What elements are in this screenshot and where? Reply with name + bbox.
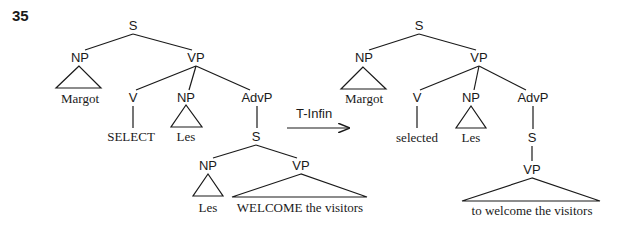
node-label: S: [129, 18, 138, 33]
transformation-label: T-Infin: [296, 106, 332, 121]
tree-branch: [85, 34, 133, 50]
triangle-abbreviation: [56, 66, 101, 88]
node-label: S: [528, 130, 537, 145]
syntax-tree-diagram: 35 SNPVPMargotVNPAdvPSELECTLesSNPVPLesWE…: [0, 0, 621, 228]
node-label: NP: [177, 90, 195, 105]
node-label: AdvP: [517, 90, 548, 105]
triangle-abbreviation: [193, 174, 223, 196]
terminal-word: Les: [199, 200, 218, 215]
tree-branch: [479, 66, 526, 90]
terminal-word: Margot: [61, 91, 99, 106]
figure-number: 35: [12, 7, 29, 24]
node-label: V: [413, 90, 422, 105]
tree-branch: [474, 66, 479, 90]
terminal-word: Les: [177, 129, 196, 144]
node-label: NP: [199, 158, 217, 173]
node-label: NP: [71, 50, 89, 65]
tree-branch: [189, 66, 196, 90]
transformation-arrow-group: T-Infin: [287, 106, 349, 128]
triangle-abbreviation: [456, 106, 486, 128]
node-label: V: [129, 90, 138, 105]
node-label: S: [415, 18, 424, 33]
triangle-abbreviation: [341, 67, 386, 89]
triangle-abbreviation: [171, 105, 202, 127]
tree-branch: [136, 66, 196, 90]
terminal-word: selected: [396, 130, 438, 145]
terminal-word: WELCOME the visitors: [237, 200, 363, 215]
terminal-word: Les: [462, 130, 481, 145]
node-label: VP: [187, 50, 204, 65]
terminal-word: SELECT: [107, 129, 155, 144]
tree-branch: [256, 145, 297, 158]
tree-after-transformation: SNPVPMargotVNPAdvPselectedLesSVPto welco…: [341, 18, 600, 218]
tree-branch: [213, 145, 256, 158]
tree-branch: [419, 34, 476, 50]
node-label: VP: [292, 158, 309, 173]
terminal-word: Margot: [345, 91, 383, 106]
triangle-abbreviation: [232, 174, 367, 197]
node-label: S: [252, 129, 261, 144]
tree-branch: [420, 66, 479, 90]
node-label: NP: [355, 50, 373, 65]
node-label: VP: [523, 162, 540, 177]
node-label: NP: [462, 90, 480, 105]
tree-branch: [196, 66, 250, 90]
tree-branch: [133, 34, 192, 50]
tree-branch: [369, 34, 419, 50]
triangle-abbreviation: [462, 178, 600, 201]
terminal-word: to welcome the visitors: [472, 203, 593, 218]
node-label: VP: [470, 50, 487, 65]
node-label: AdvP: [241, 90, 272, 105]
